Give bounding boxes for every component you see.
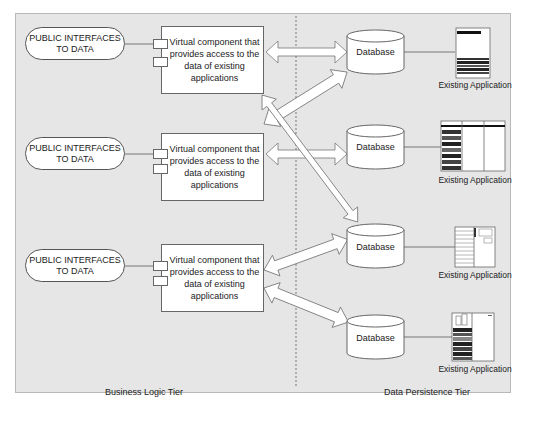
component-port-icon <box>153 261 168 271</box>
interface-label: TO DATA <box>29 266 121 277</box>
app-label-4: Existing Application <box>430 364 520 374</box>
component-port-icon <box>153 276 168 286</box>
interface-label: TO DATA <box>29 154 121 165</box>
arrow-c1-db1 <box>266 41 347 63</box>
app-window-sidebar-icon <box>452 313 494 361</box>
component-label: Virtual component that provides access t… <box>168 254 261 302</box>
app-window-form-icon <box>455 227 495 267</box>
virtual-component-3: Virtual component that provides access t… <box>161 244 264 312</box>
app-label-3: Existing Application <box>430 270 520 280</box>
component-port-icon <box>153 57 168 67</box>
connector-layer <box>0 0 534 425</box>
component-label: Virtual component that provides access t… <box>168 36 261 84</box>
component-port-icon <box>153 149 168 159</box>
database-label-2: Database <box>347 142 404 152</box>
database-label-3: Database <box>347 242 404 252</box>
database-label-4: Database <box>347 333 404 343</box>
virtual-component-1: Virtual component that provides access t… <box>161 26 264 94</box>
app-window-list-icon <box>456 28 490 78</box>
app-label-2: Existing Application <box>430 175 520 185</box>
interface-label: PUBLIC INTERFACES <box>29 33 121 44</box>
interface-label: PUBLIC INTERFACES <box>29 143 121 154</box>
component-port-icon <box>153 164 168 174</box>
app-window-columns-icon <box>441 121 505 171</box>
component-label: Virtual component that provides access t… <box>168 143 261 191</box>
interface-label: TO DATA <box>29 44 121 55</box>
data-persistence-tier-label: Data Persistence Tier <box>384 387 470 397</box>
public-interface-3: PUBLIC INTERFACESTO DATA <box>25 249 125 282</box>
public-interface-1: PUBLIC INTERFACESTO DATA <box>25 27 125 60</box>
app-label-1: Existing Application <box>430 80 520 90</box>
component-port-icon <box>153 39 168 49</box>
public-interface-2: PUBLIC INTERFACESTO DATA <box>25 137 125 170</box>
database-label-1: Database <box>347 47 404 57</box>
interface-label: PUBLIC INTERFACES <box>29 255 121 266</box>
virtual-component-2: Virtual component that provides access t… <box>161 133 264 201</box>
business-logic-tier-label: Business Logic Tier <box>105 387 183 397</box>
